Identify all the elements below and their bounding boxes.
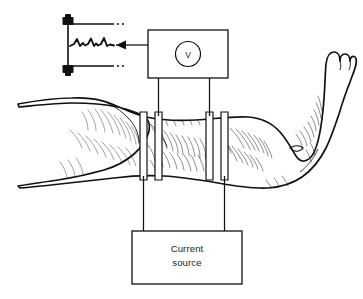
current-source-label-line2: source [172,257,201,268]
current-source-label-line1: Current [171,243,204,254]
recorder-terminal-top[interactable] [63,14,74,25]
waveform-trace [70,38,114,46]
figure-container: V [0,0,363,299]
signal-arrow [116,41,148,50]
voltmeter-box[interactable]: V [148,30,228,78]
electrode-outer-right[interactable] [221,112,228,180]
electrode-outer-left[interactable] [140,112,147,180]
waveform-display[interactable] [63,14,125,76]
electrode-inner-right[interactable] [206,112,213,180]
voltmeter-symbol-label: V [185,50,191,60]
electrode-inner-left[interactable] [155,112,162,180]
figure-canvas: V [0,0,363,299]
recorder-terminal-bottom[interactable] [63,65,74,76]
current-source-box[interactable]: Current source [132,231,242,284]
